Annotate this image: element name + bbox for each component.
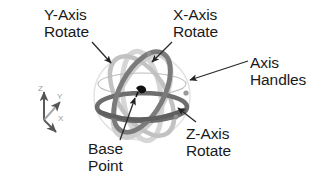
triad-label-x: X [58, 114, 63, 123]
callout-x-axis-rotate-line2: Rotate [173, 23, 218, 40]
gizmo-sphere [94, 43, 190, 147]
axis-handle-bottom-right[interactable] [174, 115, 179, 120]
callout-z-axis-rotate-line1: Z-Axis [186, 125, 231, 142]
axis-handle-top[interactable] [147, 52, 152, 57]
callout-base-point-line1: Base [88, 140, 123, 157]
triad-label-z: Z [38, 84, 43, 93]
leader-axis-handles [190, 61, 248, 80]
callout-z-axis-rotate-line2: Rotate [186, 142, 231, 159]
axis-handle-right[interactable] [183, 90, 188, 95]
rotation-gizmo-diagram: Z Y X Y-Axis Rotate X-Axis Rotate Axis H… [0, 0, 327, 192]
callout-base-point: Base Point [88, 140, 123, 174]
callout-y-axis-rotate-line1: Y-Axis [44, 6, 89, 23]
triad-axis-x [44, 120, 56, 132]
callout-y-axis-rotate-line2: Rotate [44, 23, 89, 40]
triad-label-y: Y [57, 92, 62, 101]
callout-x-axis-rotate-line1: X-Axis [173, 6, 218, 23]
callout-z-axis-rotate: Z-Axis Rotate [186, 125, 231, 159]
leader-y-axis-rotate [92, 42, 111, 63]
callout-x-axis-rotate: X-Axis Rotate [173, 6, 218, 40]
callout-axis-handles: Axis Handles [250, 54, 306, 88]
callout-y-axis-rotate: Y-Axis Rotate [44, 6, 89, 40]
callout-axis-handles-line2: Handles [250, 71, 306, 88]
callout-axis-handles-line1: Axis [250, 54, 306, 71]
callout-base-point-line2: Point [88, 157, 123, 174]
